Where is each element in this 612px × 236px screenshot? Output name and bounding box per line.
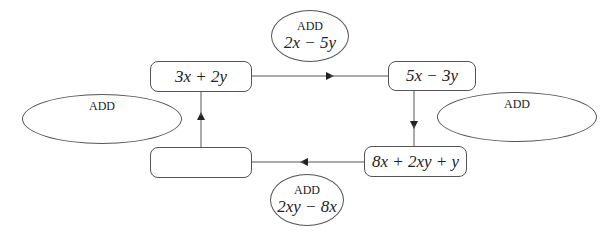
box-top-left-text: 3x + 2y	[175, 67, 227, 87]
box-bottom-right: 8x + 2xy + y	[364, 146, 467, 177]
op-bottom-label: ADD	[271, 183, 343, 198]
op-top-label: ADD	[272, 19, 348, 34]
box-top-right-text: 5x − 3y	[406, 66, 458, 86]
op-bottom-ellipse: ADD 2xy − 8x	[270, 174, 344, 226]
box-bottom-left	[150, 147, 252, 178]
op-right-ellipse: ADD	[437, 92, 597, 142]
op-top-expr: 2x − 5y	[272, 34, 348, 52]
op-bottom-expr: 2xy − 8x	[271, 198, 343, 216]
op-top-ellipse: ADD 2x − 5y	[271, 10, 349, 62]
op-left-ellipse: ADD	[22, 94, 182, 144]
op-right-label: ADD	[438, 97, 596, 112]
box-bottom-right-text: 8x + 2xy + y	[372, 152, 459, 172]
box-top-right: 5x − 3y	[388, 61, 476, 91]
box-top-left: 3x + 2y	[150, 61, 252, 92]
op-left-label: ADD	[23, 99, 181, 114]
